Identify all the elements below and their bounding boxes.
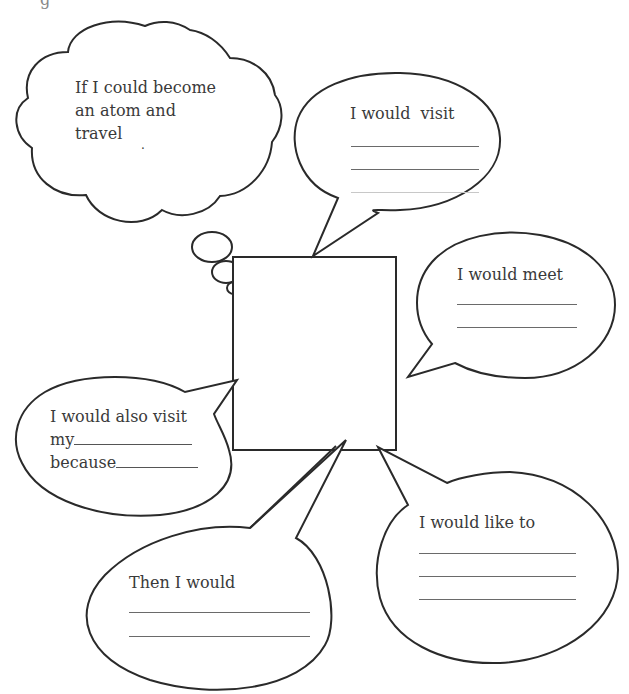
then-prompt: Then I would <box>129 572 235 593</box>
also-visit-because-label: because <box>50 453 116 472</box>
like-blank-3[interactable] <box>419 599 576 600</box>
thought-bubble-large <box>192 232 232 262</box>
also-visit-line-1: I would also visit <box>50 405 198 428</box>
worksheet-canvas: g If I could become an atom and travel .… <box>0 0 629 694</box>
meet-blank-2[interactable] <box>457 327 577 328</box>
thought-line-1: If I could become <box>75 76 216 99</box>
speech-bubble-meet <box>408 233 615 378</box>
visit-blank-2[interactable] <box>351 169 479 170</box>
like-blank-2[interactable] <box>419 576 576 577</box>
like-blank-1[interactable] <box>419 553 576 554</box>
then-blank-1[interactable] <box>129 612 310 613</box>
thought-cloud-text: If I could become an atom and travel <box>75 76 216 145</box>
also-visit-my-label: my <box>50 430 74 449</box>
my-blank[interactable] <box>74 430 192 445</box>
then-blank-2[interactable] <box>129 636 310 637</box>
visit-blank-1[interactable] <box>351 146 479 147</box>
because-blank[interactable] <box>116 453 198 468</box>
thought-line-2: an atom and <box>75 99 216 122</box>
speech-bubble-like <box>377 447 618 663</box>
also-visit-text: I would also visit my because <box>50 405 198 474</box>
thought-line-3: travel <box>75 122 216 145</box>
speech-bubble-visit <box>295 73 500 256</box>
center-box[interactable] <box>233 257 396 450</box>
meet-prompt: I would meet <box>457 264 563 285</box>
meet-blank-1[interactable] <box>457 304 577 305</box>
stray-dot: . <box>141 135 145 156</box>
visit-prompt: I would visit <box>350 103 454 124</box>
like-prompt: I would like to <box>419 512 535 533</box>
visit-blank-3[interactable] <box>351 192 479 193</box>
